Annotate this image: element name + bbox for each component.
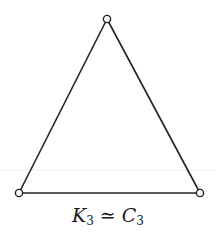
caption-right-sub: 3 (136, 214, 144, 228)
caption-left-sub: 3 (86, 214, 94, 228)
caption-left-symbol: K (72, 204, 86, 226)
vertex-top (103, 15, 110, 22)
caption-relation: ≃ (100, 204, 116, 226)
caption: K3≃C3 (0, 204, 216, 228)
vertex-bottom-left (15, 189, 22, 196)
vertex-bottom-right (196, 189, 203, 196)
caption-right-symbol: C (122, 204, 137, 226)
vertices (15, 15, 203, 196)
edges (19, 19, 200, 193)
edge-top-left (19, 19, 107, 193)
edge-right-top (107, 19, 200, 193)
